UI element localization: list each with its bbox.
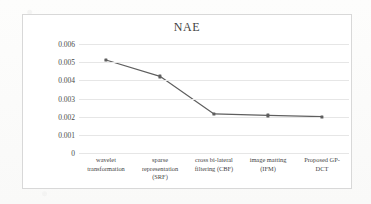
x-axis: wavelettransformationsparserepresentatio… bbox=[79, 156, 349, 188]
gridline bbox=[79, 80, 349, 81]
gridline bbox=[79, 44, 349, 45]
y-axis-tick-label: 0.006 bbox=[58, 40, 75, 49]
chart-frame: NAE 0.0060.0050.0040.0030.0020.0010 wave… bbox=[22, 14, 352, 189]
data-point-marker[interactable] bbox=[320, 115, 323, 118]
data-point-marker[interactable] bbox=[212, 112, 215, 115]
gridline bbox=[79, 135, 349, 136]
plot-area bbox=[79, 44, 349, 153]
gridline bbox=[79, 117, 349, 118]
data-point-marker[interactable] bbox=[104, 58, 107, 61]
gridline bbox=[79, 99, 349, 100]
y-axis-tick-label: 0.001 bbox=[58, 130, 75, 139]
x-axis-tick-label: Proposed GP-DCT bbox=[295, 156, 349, 188]
x-axis-tick-label: cross bi-lateralfiltering (CBF) bbox=[187, 156, 241, 188]
y-axis-tick-label: 0.004 bbox=[58, 76, 75, 85]
x-axis-tick-label: image matting(IFM) bbox=[241, 156, 295, 188]
data-point-marker[interactable] bbox=[266, 114, 269, 117]
gridline bbox=[79, 62, 349, 63]
y-axis-tick-label: 0.002 bbox=[58, 112, 75, 121]
gridline bbox=[79, 153, 349, 154]
y-axis-tick-label: 0.005 bbox=[58, 58, 75, 67]
data-point-marker[interactable] bbox=[158, 75, 161, 78]
chart-title: NAE bbox=[23, 20, 351, 35]
y-axis-tick-label: 0.003 bbox=[58, 94, 75, 103]
x-axis-tick-label: wavelettransformation bbox=[79, 156, 133, 188]
chart-page: NAE 0.0060.0050.0040.0030.0020.0010 wave… bbox=[0, 0, 371, 204]
x-axis-tick-label: sparserepresentation(SRF) bbox=[133, 156, 187, 188]
y-axis-tick-label: 0 bbox=[71, 149, 75, 158]
y-axis: 0.0060.0050.0040.0030.0020.0010 bbox=[27, 44, 75, 153]
